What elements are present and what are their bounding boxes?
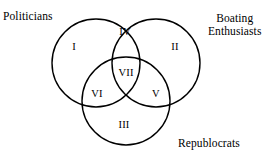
set-label-boating-enthusiasts: Boating Enthusiasts: [208, 12, 262, 37]
region-label-i: I: [72, 41, 76, 52]
venn-diagram: Politicians Boating Enthusiasts Republoc…: [0, 0, 274, 158]
region-label-iv: IV: [119, 26, 130, 37]
region-label-vii: VII: [118, 67, 133, 78]
region-label-vi: VI: [91, 88, 102, 99]
set-label-republocrats: Republocrats: [178, 137, 240, 150]
region-label-iii: III: [118, 119, 129, 130]
region-label-ii: II: [171, 41, 178, 52]
region-label-v: V: [152, 88, 160, 99]
set-label-politicians: Politicians: [3, 10, 53, 23]
